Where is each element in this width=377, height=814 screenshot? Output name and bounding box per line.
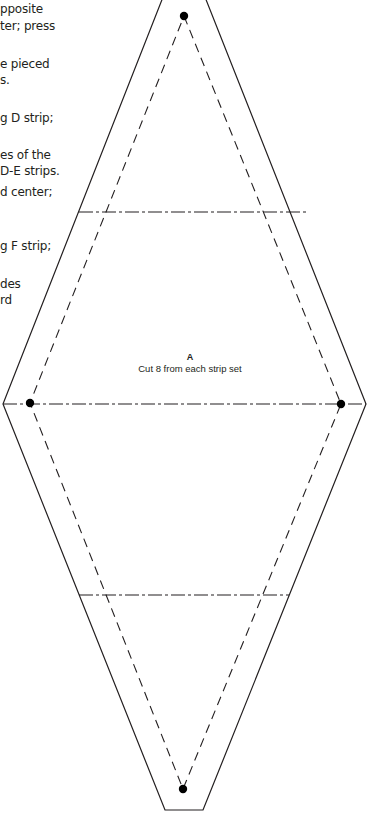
inner-sewing-line bbox=[30, 16, 341, 789]
bottom-registration-dot bbox=[179, 785, 187, 793]
outer-cut-line bbox=[3, 0, 366, 810]
top-registration-dot bbox=[180, 12, 188, 20]
cut-instruction: Cut 8 from each strip set bbox=[130, 363, 250, 375]
piece-label: A Cut 8 from each strip set bbox=[130, 352, 250, 375]
piece-letter: A bbox=[130, 352, 250, 363]
right-registration-dot bbox=[337, 400, 345, 408]
left-registration-dot bbox=[26, 399, 34, 407]
quilt-pattern-piece-a bbox=[0, 0, 377, 814]
